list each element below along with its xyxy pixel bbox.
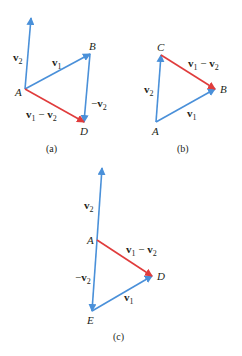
vector-v1-arrow <box>92 276 152 311</box>
point-b: B <box>89 40 96 52</box>
vector-v1-arrow <box>25 54 90 89</box>
vector-v2-arrow <box>97 168 102 240</box>
panel-c: v2 −v2 v1 v1 − v2 A D E (c) <box>75 168 165 343</box>
vector-v1-arrow <box>156 89 215 122</box>
point-b: B <box>220 83 227 95</box>
label-v2: v2 <box>13 51 23 66</box>
vector-neg-v2-arrow <box>84 54 90 122</box>
point-d: D <box>79 125 88 137</box>
point-a: A <box>14 86 22 98</box>
point-c: C <box>157 41 165 53</box>
label-neg-v2: −v2 <box>75 271 91 286</box>
vector-diagram: v2 v1 −v2 v1 − v2 A B D (a) v2 v1 v1 − v… <box>0 0 242 356</box>
label-v2: v2 <box>84 199 94 214</box>
label-neg-v2: −v2 <box>91 97 107 112</box>
label-v1: v1 <box>52 56 62 71</box>
vector-v2-arrow <box>156 55 161 122</box>
point-a: A <box>151 125 159 137</box>
vector-v2-arrow <box>25 18 31 89</box>
point-d: D <box>156 270 165 282</box>
label-v1-minus-v2: v1 − v2 <box>126 243 157 258</box>
panel-a: v2 v1 −v2 v1 − v2 A B D (a) <box>13 18 107 155</box>
label-v1-minus-v2: v1 − v2 <box>26 108 57 123</box>
vector-neg-v2-arrow <box>92 240 97 311</box>
caption-a: (a) <box>46 143 57 155</box>
caption-b: (b) <box>177 143 189 155</box>
label-v1: v1 <box>124 291 134 306</box>
label-v2: v2 <box>144 83 154 98</box>
point-a: A <box>86 234 94 246</box>
label-v1-minus-v2: v1 − v2 <box>188 57 219 72</box>
point-e: E <box>86 314 94 326</box>
caption-c: (c) <box>113 331 124 343</box>
panel-b: v2 v1 v1 − v2 A C B (b) <box>144 41 227 155</box>
label-v1: v1 <box>187 107 197 122</box>
